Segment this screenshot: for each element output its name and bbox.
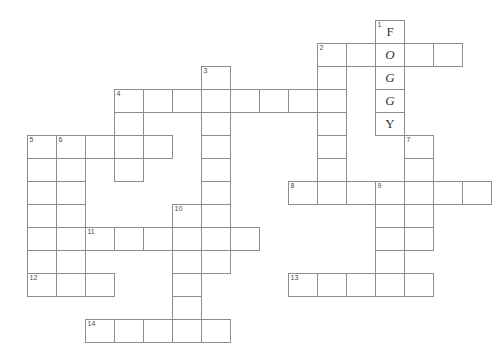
crossword-cell[interactable] [375, 273, 405, 297]
cell-number-4: 4 [117, 90, 121, 98]
crossword-cell[interactable] [230, 227, 260, 251]
crossword-cell[interactable] [27, 204, 57, 228]
cell-number-9: 9 [378, 182, 382, 190]
crossword-cell[interactable] [346, 43, 376, 67]
crossword-cell[interactable] [317, 112, 347, 136]
crossword-cell[interactable]: 3 [201, 66, 231, 90]
crossword-cell[interactable] [143, 319, 173, 343]
crossword-cell[interactable] [56, 181, 86, 205]
cell-number-14: 14 [88, 320, 96, 328]
crossword-cell[interactable]: 4 [114, 89, 144, 113]
crossword-cell[interactable] [114, 227, 144, 251]
crossword-cell[interactable] [85, 273, 115, 297]
crossword-puzzle: 1F2O3G4GY567891011121314 [0, 0, 494, 359]
crossword-cell[interactable]: 7 [404, 135, 434, 159]
crossword-cell[interactable] [404, 204, 434, 228]
crossword-cell[interactable] [114, 319, 144, 343]
crossword-cell[interactable]: 14 [85, 319, 115, 343]
crossword-cell[interactable] [201, 204, 231, 228]
crossword-cell[interactable] [56, 158, 86, 182]
crossword-cell[interactable] [27, 158, 57, 182]
crossword-cell[interactable] [172, 227, 202, 251]
crossword-cell[interactable]: G [375, 66, 405, 90]
crossword-cell[interactable] [56, 250, 86, 274]
crossword-cell[interactable] [259, 89, 289, 113]
crossword-cell[interactable]: 11 [85, 227, 115, 251]
cell-number-5: 5 [30, 136, 34, 144]
crossword-cell[interactable] [317, 66, 347, 90]
crossword-cell[interactable]: 10 [172, 204, 202, 228]
cell-number-7: 7 [407, 136, 411, 144]
crossword-cell[interactable] [201, 158, 231, 182]
crossword-cell[interactable] [27, 250, 57, 274]
crossword-cell[interactable] [201, 319, 231, 343]
crossword-cell[interactable] [114, 135, 144, 159]
cell-number-1: 1 [378, 21, 382, 29]
crossword-cell[interactable]: 5 [27, 135, 57, 159]
crossword-cell[interactable] [404, 227, 434, 251]
crossword-cell[interactable] [172, 319, 202, 343]
crossword-cell[interactable] [172, 89, 202, 113]
cell-number-12: 12 [30, 274, 38, 282]
crossword-cell[interactable]: 6 [56, 135, 86, 159]
crossword-cell[interactable]: 12 [27, 273, 57, 297]
crossword-cell[interactable] [317, 181, 347, 205]
cell-number-6: 6 [59, 136, 63, 144]
crossword-cell[interactable] [27, 227, 57, 251]
crossword-cell[interactable]: 8 [288, 181, 318, 205]
crossword-cell[interactable] [56, 204, 86, 228]
crossword-cell[interactable] [375, 227, 405, 251]
crossword-cell[interactable] [317, 135, 347, 159]
crossword-cell[interactable] [172, 250, 202, 274]
crossword-cell[interactable]: Y [375, 112, 405, 136]
crossword-cell[interactable] [404, 158, 434, 182]
crossword-cell[interactable]: 13 [288, 273, 318, 297]
cell-number-3: 3 [204, 67, 208, 75]
cell-letter: Y [376, 113, 404, 135]
crossword-cell[interactable] [201, 89, 231, 113]
crossword-cell[interactable] [317, 89, 347, 113]
cell-letter: G [376, 90, 404, 112]
crossword-cell[interactable]: 2 [317, 43, 347, 67]
cell-number-2: 2 [320, 44, 324, 52]
crossword-cell[interactable] [114, 112, 144, 136]
crossword-cell[interactable]: 9 [375, 181, 405, 205]
crossword-cell[interactable] [56, 227, 86, 251]
crossword-cell[interactable]: G [375, 89, 405, 113]
crossword-cell[interactable] [230, 89, 260, 113]
crossword-cell[interactable] [114, 158, 144, 182]
crossword-cell[interactable] [27, 181, 57, 205]
crossword-cell[interactable] [143, 135, 173, 159]
cell-number-13: 13 [291, 274, 299, 282]
crossword-cell[interactable]: O [375, 43, 405, 67]
crossword-cell[interactable]: 1F [375, 20, 405, 44]
crossword-cell[interactable] [56, 273, 86, 297]
crossword-cell[interactable] [201, 250, 231, 274]
crossword-cell[interactable] [143, 89, 173, 113]
crossword-cell[interactable] [201, 227, 231, 251]
crossword-cell[interactable] [404, 43, 434, 67]
crossword-cell[interactable] [433, 43, 463, 67]
crossword-cell[interactable] [317, 273, 347, 297]
crossword-cell[interactable] [346, 273, 376, 297]
crossword-grid[interactable]: 1F2O3G4GY567891011121314 [0, 0, 494, 359]
crossword-cell[interactable] [462, 181, 492, 205]
crossword-cell[interactable] [172, 296, 202, 320]
crossword-cell[interactable] [346, 181, 376, 205]
cell-number-11: 11 [88, 228, 95, 236]
crossword-cell[interactable] [375, 250, 405, 274]
crossword-cell[interactable] [172, 273, 202, 297]
crossword-cell[interactable] [375, 204, 405, 228]
crossword-cell[interactable] [201, 181, 231, 205]
crossword-cell[interactable] [143, 227, 173, 251]
crossword-cell[interactable] [404, 273, 434, 297]
crossword-cell[interactable] [201, 112, 231, 136]
crossword-cell[interactable] [288, 89, 318, 113]
crossword-cell[interactable] [317, 158, 347, 182]
crossword-cell[interactable] [85, 135, 115, 159]
crossword-cell[interactable] [404, 181, 434, 205]
crossword-cell[interactable] [433, 181, 463, 205]
cell-letter: O [376, 44, 404, 66]
crossword-cell[interactable] [201, 135, 231, 159]
cell-letter: F [376, 21, 404, 43]
